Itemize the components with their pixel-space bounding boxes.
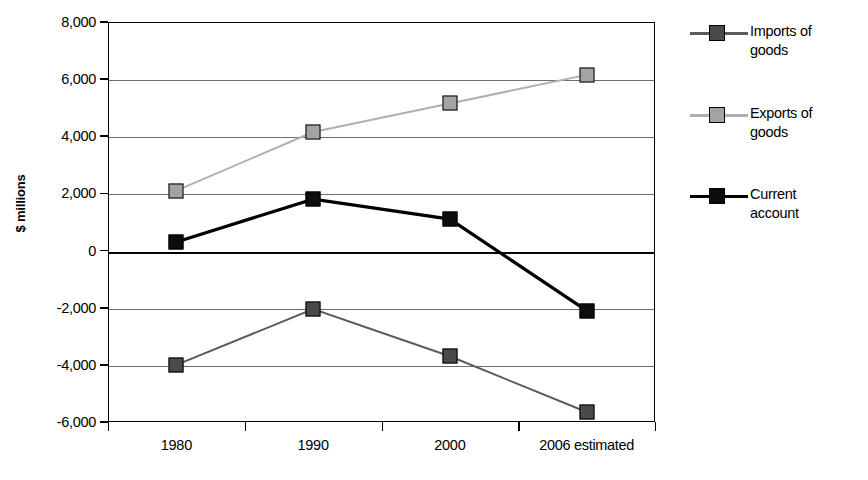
legend-item[interactable]: Currentaccount [688,185,799,223]
legend-key [688,23,750,43]
legend-label: Currentaccount [750,185,799,223]
data-point-marker [442,212,457,227]
data-point-marker [306,302,321,317]
data-point-marker [579,405,594,420]
legend-swatch-icon [709,188,725,204]
data-point-marker [306,125,321,140]
legend-key [688,186,750,206]
data-point-marker [169,183,184,198]
data-point-marker [442,349,457,364]
legend-item[interactable]: Exports ofgoods [688,104,812,142]
legend-swatch-icon [709,107,725,123]
data-point-marker [442,96,457,111]
data-point-marker [579,67,594,82]
data-point-marker [169,235,184,250]
data-point-marker [579,303,594,318]
data-point-marker [306,192,321,207]
chart-figure: $ millions 8,0006,0004,0002,0000-2,000-4… [0,0,868,480]
legend-label: Imports ofgoods [750,22,811,60]
legend-label: Exports ofgoods [750,104,812,142]
series-markers-layer [0,0,868,480]
legend-swatch-icon [709,25,725,41]
legend-item[interactable]: Imports ofgoods [688,22,811,60]
legend-key [688,105,750,125]
data-point-marker [169,357,184,372]
